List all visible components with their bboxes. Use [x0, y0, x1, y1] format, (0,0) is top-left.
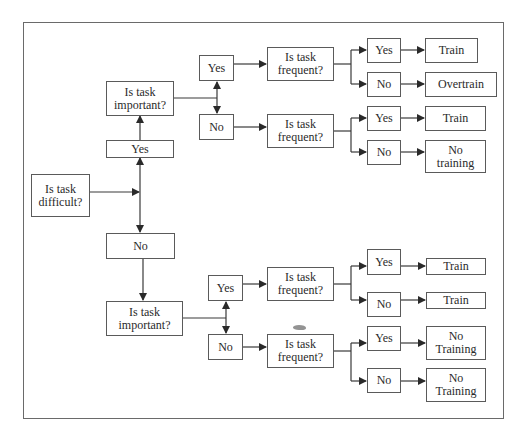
node-label: No [209, 121, 224, 134]
node-is-task-important-bottom: Is task important? [106, 301, 183, 336]
node-label: Is task important? [119, 306, 171, 332]
node-label: No [377, 78, 392, 91]
node-label: No training [437, 144, 474, 170]
node-label: Train [443, 112, 469, 125]
node-label: Yes [375, 44, 392, 57]
node-label: Is task important? [114, 86, 166, 112]
node-label: No [377, 374, 392, 387]
node-important-top-yes: Yes [199, 55, 234, 81]
node-important-bottom-no: No [208, 334, 243, 360]
node-is-task-frequent-3: Is task frequent? [267, 267, 334, 301]
outcome-train-3: Train [426, 258, 486, 275]
node-important-bottom-yes: Yes [208, 275, 243, 301]
node-label: Is task frequent? [278, 271, 323, 297]
node-label: Is task frequent? [278, 338, 323, 364]
node-label: No [218, 341, 233, 354]
node-label: Train [439, 44, 465, 57]
node-freq1-yes: Yes [367, 38, 401, 63]
node-important-top-no: No [199, 114, 234, 140]
node-label: Yes [375, 112, 392, 125]
node-is-task-frequent-4: Is task frequent? [267, 334, 334, 368]
node-is-task-important-top: Is task important? [106, 81, 174, 116]
node-label: Overtrain [438, 78, 484, 91]
outcome-train-2: Train [425, 106, 486, 131]
node-freq2-no: No [367, 140, 401, 165]
node-is-task-frequent-2: Is task frequent? [267, 114, 334, 148]
outcome-no-training-2: No Training [426, 326, 486, 360]
node-label: Is task difficult? [39, 183, 83, 209]
node-freq3-yes: Yes [367, 249, 401, 275]
node-is-task-difficult: Is task difficult? [31, 174, 90, 217]
node-label: No [377, 146, 392, 159]
node-label: Is task frequent? [278, 118, 323, 144]
outcome-no-training-3: No Training [426, 368, 486, 402]
node-label: Yes [375, 332, 392, 345]
node-freq3-no: No [367, 292, 401, 317]
node-freq1-no: No [367, 72, 401, 97]
node-label: Yes [217, 282, 234, 295]
node-label: Train [443, 294, 469, 307]
node-label: No Training [436, 330, 477, 356]
node-label: Train [443, 260, 469, 273]
outcome-no-training-1: No training [425, 140, 486, 173]
node-freq4-no: No [367, 368, 401, 393]
node-difficult-no: No [106, 233, 175, 259]
node-freq2-yes: Yes [367, 106, 401, 131]
node-label: Yes [375, 256, 392, 269]
node-label: Yes [131, 143, 148, 156]
outcome-train-4: Train [426, 292, 486, 309]
node-label: No Training [436, 372, 477, 398]
scan-smudge [293, 325, 306, 330]
node-freq4-yes: Yes [367, 326, 401, 351]
node-label: No [133, 240, 148, 253]
node-label: Yes [208, 62, 225, 75]
node-label: Is task frequent? [278, 51, 323, 77]
node-is-task-frequent-1: Is task frequent? [267, 47, 334, 81]
node-label: No [377, 298, 392, 311]
node-difficult-yes: Yes [106, 140, 174, 158]
outcome-overtrain: Overtrain [425, 72, 497, 97]
outcome-train-1: Train [425, 38, 478, 63]
